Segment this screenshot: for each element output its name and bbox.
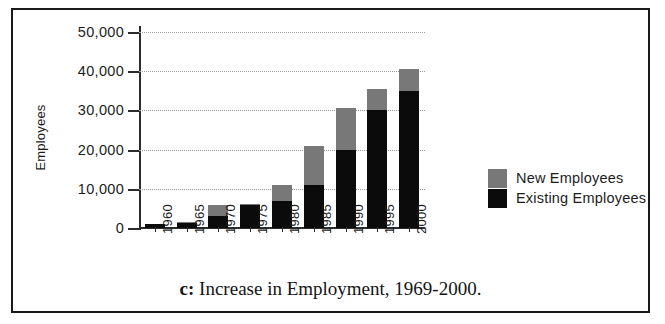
x-tick-label-2000: 2000 (414, 204, 429, 234)
chart-legend: New EmployeesExisting Employees (488, 168, 646, 208)
figure-caption: c: Increase in Employment, 1969-2000. (13, 278, 648, 300)
bar-segment-new-employees (304, 146, 324, 185)
x-tick-label-1990: 1990 (351, 204, 366, 234)
x-tick-mark (346, 227, 347, 232)
x-tick-label-1995: 1995 (382, 204, 397, 234)
x-tick-mark (250, 227, 251, 232)
legend-label-existing: Existing Employees (516, 190, 646, 206)
y-tick-mark (128, 71, 139, 73)
x-tick-mark (155, 227, 156, 232)
x-tick-mark (409, 227, 410, 232)
x-tick-mark (218, 227, 219, 232)
legend-swatch-existing (488, 189, 507, 208)
gridline (139, 71, 425, 72)
x-tick-mark (187, 227, 188, 232)
x-tick-label-1965: 1965 (192, 204, 207, 234)
y-tick-label: 40,000 (78, 63, 124, 79)
plot-inner: 010,00020,00030,00040,00050,000 (139, 32, 425, 228)
y-tick-label: 0 (116, 220, 124, 236)
legend-item-new: New Employees (488, 168, 646, 188)
bar-segment-new-employees (367, 89, 387, 111)
figure-frame: Employees 010,00020,00030,00040,00050,00… (11, 8, 650, 313)
y-tick-mark (128, 228, 139, 230)
y-tick-label: 30,000 (78, 102, 124, 118)
caption-text: Increase in Employment, 1969-2000. (199, 278, 481, 299)
x-tick-label-1985: 1985 (319, 204, 334, 234)
legend-item-existing: Existing Employees (488, 188, 646, 208)
y-tick-label: 20,000 (78, 142, 124, 158)
bar-segment-new-employees (399, 69, 419, 91)
bar-segment-new-employees (272, 185, 292, 201)
y-tick-mark (128, 32, 139, 34)
y-tick-mark (128, 150, 139, 152)
x-tick-mark (377, 227, 378, 232)
y-tick-label: 10,000 (78, 181, 124, 197)
gridline (139, 32, 425, 33)
y-axis-title: Employees (33, 78, 48, 198)
bar-segment-new-employees (336, 108, 356, 149)
plot-area: 010,00020,00030,00040,00050,000 (139, 32, 425, 228)
legend-swatch-new (488, 169, 507, 188)
chart-area: Employees 010,00020,00030,00040,00050,00… (13, 10, 652, 272)
y-tick-label: 50,000 (78, 24, 124, 40)
y-tick-mark (128, 189, 139, 191)
x-tick-label-1960: 1960 (160, 204, 175, 234)
x-tick-label-1975: 1975 (255, 204, 270, 234)
x-tick-label-1970: 1970 (223, 204, 238, 234)
y-tick-mark (128, 110, 139, 112)
caption-letter: c: (180, 278, 195, 299)
x-tick-label-1980: 1980 (287, 204, 302, 234)
x-tick-mark (282, 227, 283, 232)
x-tick-mark (314, 227, 315, 232)
legend-label-new: New Employees (516, 170, 623, 186)
